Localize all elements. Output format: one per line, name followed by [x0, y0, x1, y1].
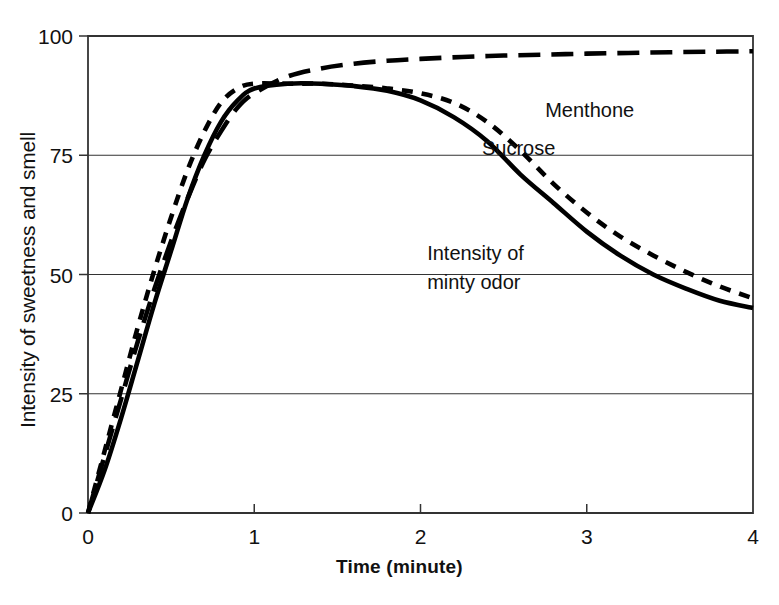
- x-axis-title-text: Time (minute): [336, 556, 463, 577]
- y-tick-label-0: 0: [61, 502, 73, 525]
- y-axis-title-text: Intensity of sweetness and smell: [16, 132, 40, 428]
- series-line-sucrose: [88, 83, 753, 513]
- axis-tick-labels: 012340255075100: [38, 25, 759, 548]
- chart-container: Intensity of sweetness and smell 0123402…: [0, 0, 779, 605]
- x-tick-label-3: 3: [581, 525, 593, 548]
- series-line-menthone: [88, 51, 753, 513]
- minty-label-line1: Intensity of: [427, 242, 524, 264]
- y-axis-title: Intensity of sweetness and smell: [0, 0, 56, 560]
- data-series-group: [88, 51, 753, 513]
- x-axis-title: Time (minute): [0, 556, 779, 578]
- minty-label-line2: minty odor: [427, 271, 521, 293]
- x-tick-label-0: 0: [82, 525, 94, 548]
- x-tick-label-4: 4: [747, 525, 759, 548]
- x-tick-label-1: 1: [248, 525, 260, 548]
- x-tick-label-2: 2: [415, 525, 427, 548]
- series-line-intensity-of-minty-odor: [88, 83, 753, 513]
- series-annotations: MenthoneSucroseIntensity ofminty odor: [427, 99, 634, 293]
- menthone-label: Menthone: [545, 99, 634, 121]
- line-chart-plot: 012340255075100 MenthoneSucroseIntensity…: [0, 0, 779, 605]
- sucrose-label: Sucrose: [482, 137, 555, 159]
